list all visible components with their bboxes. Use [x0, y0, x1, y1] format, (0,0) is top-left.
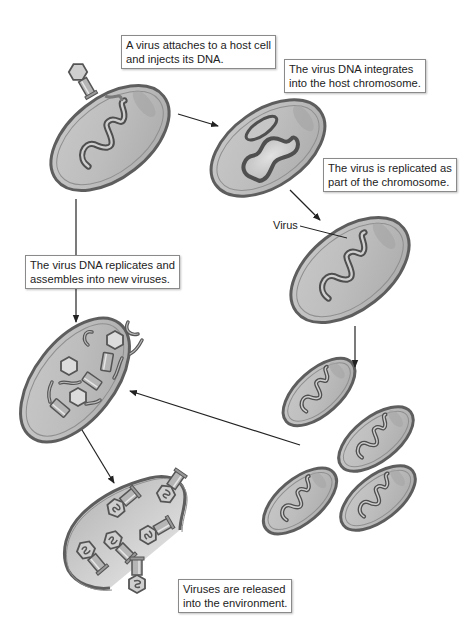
label-line: A virus attaches to a host cell: [126, 38, 271, 52]
arrow-infection-to-integration: [178, 114, 218, 126]
label-line: and injects its DNA.: [126, 52, 271, 66]
arrow-integration-to-prophage: [290, 190, 320, 220]
label-step5-release: Viruses are released into the environmen…: [178, 579, 292, 613]
arrow-assembly-to-lysis: [82, 430, 114, 483]
cells-division: [252, 346, 426, 546]
virus-pointer-label: Virus: [273, 219, 298, 231]
cell-infection: [32, 65, 188, 212]
label-step2-integrate: The virus DNA integrates into the host c…: [284, 59, 426, 93]
arrow-division-to-assembly: [130, 391, 300, 445]
label-line: The virus is replicated as: [328, 161, 452, 175]
label-line: into the host chromosome.: [289, 76, 421, 90]
label-line: The virus DNA replicates and: [30, 258, 175, 272]
label-step3-replicate: The virus is replicated as part of the c…: [323, 158, 457, 192]
label-line: into the environment.: [183, 596, 287, 610]
cell-integration: [194, 80, 342, 216]
label-step4-assemble: The virus DNA replicates and assembles i…: [25, 255, 180, 289]
label-step1-attach: A virus attaches to a host cell and inje…: [121, 35, 276, 69]
label-line: assembles into new viruses.: [30, 272, 175, 286]
label-line: Viruses are released: [183, 582, 287, 596]
label-line: The virus DNA integrates: [289, 62, 421, 76]
diagram-canvas: A virus attaches to a host cell and inje…: [0, 0, 468, 644]
phage-icon: [67, 60, 99, 100]
label-line: part of the chromosome.: [328, 175, 452, 189]
